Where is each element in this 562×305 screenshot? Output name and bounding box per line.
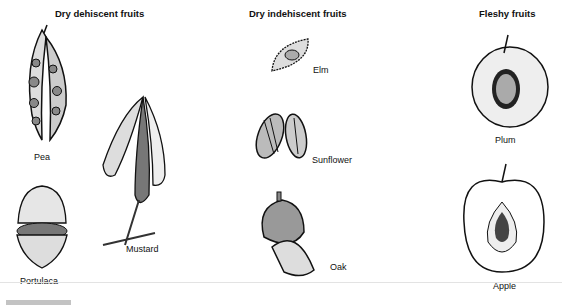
sunflower-achene-icon	[252, 112, 312, 167]
elm-samara-icon	[268, 35, 314, 75]
heading-dry-indehiscent: Dry indehiscent fruits	[249, 8, 347, 19]
label-oak: Oak	[330, 262, 347, 272]
mustard-silique-icon	[95, 95, 175, 255]
divider-line	[0, 282, 562, 283]
figure-caption-cropped	[6, 300, 71, 305]
pea-pod-icon	[20, 25, 75, 150]
portulaca-capsule-icon	[10, 183, 75, 273]
label-portulaca: Portulaca	[20, 276, 58, 286]
apple-pome-icon	[456, 162, 551, 277]
label-pea: Pea	[34, 152, 50, 162]
label-plum: Plum	[495, 135, 516, 145]
acorn-icon	[252, 192, 322, 277]
heading-fleshy: Fleshy fruits	[479, 8, 536, 19]
label-sunflower: Sunflower	[312, 155, 352, 165]
label-mustard: Mustard	[126, 244, 159, 254]
label-elm: Elm	[313, 65, 329, 75]
plum-drupe-icon	[470, 35, 550, 130]
heading-dry-dehiscent: Dry dehiscent fruits	[55, 8, 144, 19]
